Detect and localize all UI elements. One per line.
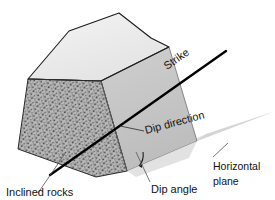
label-horizontal-plane-line2: plane [213,175,239,187]
horizontal-plane-shade [197,112,273,141]
label-horizontal-plane-line1: Horizontal [213,160,260,172]
label-inclined-rocks: Inclined rocks [6,186,74,198]
geology-diagram: Strike Dip direction Dip angle Inclined … [0,0,275,200]
label-dip-angle: Dip angle [151,183,197,195]
block-diagram-canvas: Strike Dip direction Dip angle Inclined … [0,0,275,200]
horizontal-plane-leader [213,143,228,157]
